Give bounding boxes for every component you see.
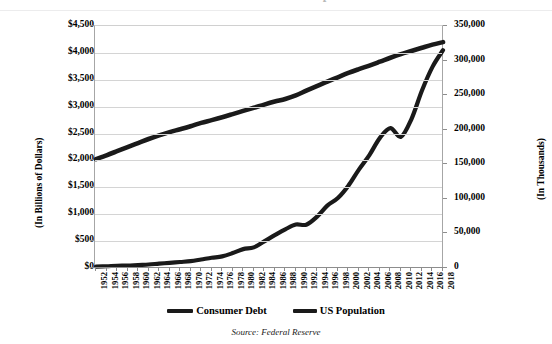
- right-axis-tick: [443, 232, 447, 233]
- x-axis-tick: [253, 268, 254, 271]
- gridline: [95, 160, 442, 161]
- x-axis-tick: [116, 268, 117, 271]
- x-axis-tick: [347, 268, 348, 271]
- left-axis-tick-label: $0: [28, 261, 94, 271]
- legend-item-us-population[interactable]: US Population: [293, 305, 385, 316]
- x-axis-tick: [95, 268, 96, 271]
- gridline: [95, 134, 442, 135]
- gridline: [95, 214, 442, 215]
- x-axis-tick: [410, 268, 411, 271]
- x-axis-tick-label: 1976: [225, 272, 235, 289]
- x-axis-tick: [400, 268, 401, 271]
- x-axis-tick: [242, 268, 243, 271]
- x-axis-tick-label: 1966: [173, 272, 183, 289]
- gridline: [95, 107, 442, 108]
- x-axis-tick-label: 2016: [435, 272, 445, 289]
- gridline: [95, 187, 442, 188]
- x-axis-tick-label: 1970: [194, 272, 204, 289]
- x-axis-tick-label: 1998: [341, 272, 351, 289]
- x-axis-tick-label: 1962: [152, 272, 162, 289]
- x-axis-tick: [421, 268, 422, 271]
- gridline: [95, 80, 442, 81]
- x-axis-tick-label: 1974: [215, 272, 225, 289]
- x-axis-tick-label: 1980: [246, 272, 256, 289]
- x-axis-tick: [389, 268, 390, 271]
- x-axis-tick-label: 1982: [257, 272, 267, 289]
- right-axis-tick: [443, 163, 447, 164]
- right-axis-tick-label: 100,000: [454, 192, 485, 202]
- x-axis-tick-label: 1996: [330, 272, 340, 289]
- x-axis-tick-label: 2014: [425, 272, 435, 289]
- x-axis-tick-label: 1958: [131, 272, 141, 289]
- x-axis-tick-label: 2012: [414, 272, 424, 289]
- legend-item-consumer-debt[interactable]: Consumer Debt: [167, 305, 267, 316]
- x-axis-tick: [169, 268, 170, 271]
- right-axis-tick-label: 300,000: [454, 54, 485, 64]
- x-axis-tick: [127, 268, 128, 271]
- x-axis-tick: [295, 268, 296, 271]
- right-axis-tick-label: 200,000: [454, 123, 485, 133]
- left-axis: $0$500$1,000$1,500$2,000$2,500$3,000$3,5…: [0, 0, 94, 300]
- plot-area: [94, 25, 443, 267]
- x-axis-tick: [137, 268, 138, 271]
- x-axis-tick: [305, 268, 306, 271]
- legend-swatch-icon: [293, 309, 317, 313]
- x-axis-tick-label: 2002: [362, 272, 372, 289]
- x-axis-tick-label: 1964: [162, 272, 172, 289]
- x-axis-tick-label: 1978: [236, 272, 246, 289]
- x-axis-tick: [431, 268, 432, 271]
- x-axis-tick: [263, 268, 264, 271]
- x-axis-tick: [158, 268, 159, 271]
- x-axis-tick-label: 1990: [299, 272, 309, 289]
- x-axis-tick: [179, 268, 180, 271]
- x-axis-tick-label: 2008: [393, 272, 403, 289]
- gridline: [95, 241, 442, 242]
- left-axis-tick-label: $500: [28, 234, 94, 244]
- right-axis-tick-label: 150,000: [454, 157, 485, 167]
- chart-figure: Consumer Debt vs US Population $0$500$1,…: [0, 0, 552, 344]
- legend-label: Consumer Debt: [196, 305, 267, 316]
- right-axis-tick: [443, 25, 447, 26]
- left-axis-tick-label: $3,500: [28, 73, 94, 83]
- x-axis-tick: [221, 268, 222, 271]
- x-axis-tick-label: 1968: [183, 272, 193, 289]
- x-axis-tick-label: 2006: [383, 272, 393, 289]
- x-axis-tick: [148, 268, 149, 271]
- right-axis-tick: [443, 267, 447, 268]
- x-axis-tick-label: 1986: [278, 272, 288, 289]
- right-axis-tick: [443, 94, 447, 95]
- x-axis-tick-label: 1972: [204, 272, 214, 289]
- x-axis-tick-label: 2010: [404, 272, 414, 289]
- right-axis-tick-label: 50,000: [454, 226, 480, 236]
- x-axis-tick: [232, 268, 233, 271]
- left-axis-tick-label: $3,000: [28, 100, 94, 110]
- x-axis-tick-label: 2018: [446, 272, 456, 289]
- series-line-us-population: [96, 42, 443, 159]
- x-axis-tick: [274, 268, 275, 271]
- x-axis-tick-label: 1960: [141, 272, 151, 289]
- x-axis-tick: [284, 268, 285, 271]
- x-axis-tick: [337, 268, 338, 271]
- right-axis-tick-label: 350,000: [454, 19, 485, 29]
- x-axis-tick-label: 2000: [351, 272, 361, 289]
- left-axis-title: (In Billions of Dollars): [34, 137, 44, 228]
- x-axis-tick: [316, 268, 317, 271]
- legend-label: US Population: [320, 305, 385, 316]
- chart-legend: Consumer DebtUS Population: [0, 305, 552, 316]
- x-axis-tick: [200, 268, 201, 271]
- right-axis-tick: [443, 198, 447, 199]
- x-axis-tick: [326, 268, 327, 271]
- x-axis-tick: [190, 268, 191, 271]
- x-axis-tick: [379, 268, 380, 271]
- right-axis-tick: [443, 60, 447, 61]
- gridline: [95, 53, 442, 54]
- x-axis-tick: [211, 268, 212, 271]
- x-axis-tick: [358, 268, 359, 271]
- x-axis-tick-label: 2004: [372, 272, 382, 289]
- x-axis-tick-label: 1984: [267, 272, 277, 289]
- source-note: Source: Federal Reserve: [0, 327, 552, 337]
- right-axis-tick-label: 250,000: [454, 88, 485, 98]
- x-axis-tick-label: 1988: [288, 272, 298, 289]
- x-axis-tick-label: 1952: [99, 272, 109, 289]
- x-axis-tick: [368, 268, 369, 271]
